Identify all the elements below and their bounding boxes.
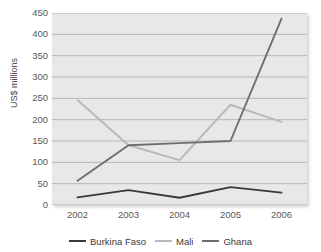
y-tick-label: 250 [18,93,48,103]
y-tick-label: 300 [18,72,48,82]
series-line-burkina-faso [78,187,282,198]
x-tick-label: 2002 [58,209,98,220]
legend-label: Mali [176,236,193,247]
x-tick-label: 2004 [160,209,200,220]
legend-item-burkina-faso[interactable]: Burkina Faso [69,236,146,247]
x-tick-label: 2003 [109,209,149,220]
line-chart: US$ millions 050100150200250300350400450… [0,0,321,252]
legend-swatch-icon [202,240,219,242]
legend: Burkina FasoMaliGhana [0,232,321,250]
y-tick-label: 200 [18,115,48,125]
legend-item-ghana[interactable]: Ghana [202,236,252,247]
y-tick-label: 400 [18,29,48,39]
y-tick-label: 100 [18,157,48,167]
y-tick-label: 150 [18,136,48,146]
x-tick-label: 2005 [211,209,251,220]
legend-label: Ghana [223,236,252,247]
y-tick-label: 0 [18,200,48,210]
y-axis-tick-labels: 050100150200250300350400450 [16,0,48,252]
series-line-ghana [78,19,282,181]
series-line-mali [78,100,282,160]
x-tick-label: 2006 [262,209,302,220]
y-tick-label: 350 [18,51,48,61]
legend-swatch-icon [155,240,172,242]
legend-swatch-icon [69,240,86,242]
y-tick-label: 450 [18,8,48,18]
plot-area [52,13,307,205]
legend-label: Burkina Faso [90,236,146,247]
y-tick-label: 50 [18,179,48,189]
x-axis-tick-labels: 20022003200420052006 [52,209,307,225]
legend-item-mali[interactable]: Mali [155,236,193,247]
plot-svg [52,13,307,205]
